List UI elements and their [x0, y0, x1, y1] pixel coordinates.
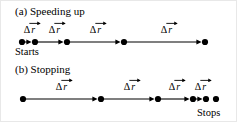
r-symbol: r: [201, 82, 207, 92]
position-dot: [64, 39, 70, 45]
displacement-vector-label: Δr: [161, 25, 173, 35]
position-dot: [202, 39, 208, 45]
position-dot: [213, 96, 219, 102]
vector-arrowhead: [149, 96, 154, 101]
vector-arrowhead: [196, 39, 201, 44]
r-symbol: r: [130, 82, 136, 92]
r-symbol: r: [62, 82, 68, 92]
vector-arrowhead: [58, 39, 63, 44]
vector-arrowhead: [197, 96, 202, 101]
position-dot: [203, 96, 209, 102]
panel-title-stopping: (b) Stopping: [15, 64, 70, 75]
r-symbol: r: [96, 25, 102, 35]
position-dot: [121, 39, 127, 45]
position-dot: [155, 96, 161, 102]
position-dot: [32, 39, 38, 45]
displacement-vector-label: Δr: [90, 25, 102, 35]
vector-arrowhead: [184, 96, 189, 101]
vector-arrowhead: [26, 39, 31, 44]
position-dot: [190, 96, 196, 102]
r-symbol: r: [167, 25, 173, 35]
position-dot: [19, 39, 25, 45]
endpoint-label-starts: Starts: [15, 47, 39, 58]
displacement-vector-label: Δr: [124, 82, 136, 92]
r-symbol: r: [30, 25, 36, 35]
displacement-vector-label: Δr: [49, 25, 61, 35]
vector-arrowhead: [115, 39, 120, 44]
panel-title-speeding-up: (a) Speeding up: [15, 6, 85, 17]
motion-vector-layer: [1, 1, 237, 122]
motion-diagram-figure: (a) Speeding up Starts (b) Stopping Stop…: [0, 0, 237, 122]
endpoint-label-stops: Stops: [197, 108, 220, 119]
displacement-vector-label: Δr: [56, 82, 68, 92]
r-symbol: r: [175, 82, 181, 92]
displacement-vector-label: Δr: [195, 82, 207, 92]
r-symbol: r: [55, 25, 61, 35]
position-dot: [98, 96, 104, 102]
vector-arrowhead: [92, 96, 97, 101]
displacement-vector-label: Δr: [24, 25, 36, 35]
displacement-vector-label: Δr: [169, 82, 181, 92]
position-dot: [20, 96, 26, 102]
